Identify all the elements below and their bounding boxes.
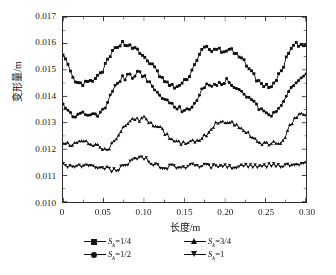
- legend-item-sk-3-4: Sk=3/4: [184, 236, 274, 247]
- legend-item-sk-1-4: Sk=1/4: [84, 236, 174, 247]
- legend-label-sk-1: Sk=1: [208, 249, 224, 261]
- x-tick-label: 0: [42, 208, 82, 217]
- x-tick-label: 0.30: [287, 208, 327, 217]
- legend-item-sk-1: Sk=1: [184, 249, 274, 260]
- x-axis-title-text: 长度/m: [170, 222, 201, 233]
- legend-label-sk-3-4: Sk=3/4: [208, 236, 231, 248]
- legend: Sk=1/4 Sk=3/4 Sk=1/2 Sk=1: [84, 236, 274, 260]
- x-tick-label: 0.10: [124, 208, 164, 217]
- triangle-up-marker-icon: [184, 237, 206, 246]
- square-marker-icon: [84, 237, 106, 246]
- legend-label-sk-1-2: Sk=1/2: [108, 249, 131, 261]
- x-tick-label: 0.15: [165, 208, 205, 217]
- x-axis-title: 长度/m: [125, 219, 245, 234]
- legend-label-sk-1-4: Sk=1/4: [108, 236, 131, 248]
- legend-item-sk-1-2: Sk=1/2: [84, 249, 174, 260]
- chart-figure: 变形量/m 0.0100.0110.0120.0130.0140.0150.01…: [0, 0, 336, 275]
- triangle-down-marker-icon: [184, 250, 206, 259]
- circle-marker-icon: [84, 250, 106, 259]
- x-tick-label: 0.20: [205, 208, 245, 217]
- x-tick-label: 0.05: [83, 208, 123, 217]
- x-tick-label: 0.25: [246, 208, 286, 217]
